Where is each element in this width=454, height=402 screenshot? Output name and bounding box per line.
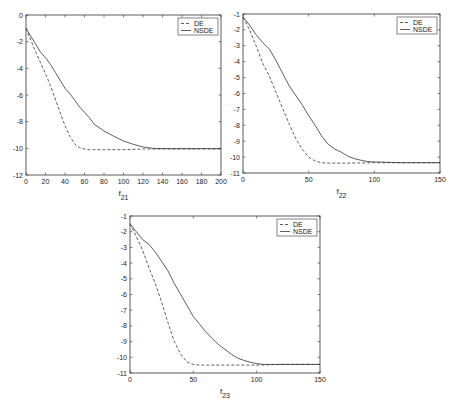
y-tick-label: -7: [121, 307, 127, 314]
y-tick-label: -4: [234, 58, 240, 65]
x-tick-label: 60: [81, 178, 89, 185]
x-tick-label: 0: [128, 376, 132, 383]
x-axis-label: f22: [336, 187, 346, 199]
y-tick-label: -6: [17, 92, 23, 99]
y-tick-label: -3: [234, 42, 240, 49]
legend-label-de: DE: [194, 20, 204, 27]
y-tick-label: 0: [19, 12, 23, 19]
x-tick-label: 100: [118, 178, 130, 185]
y-tick-label: -4: [17, 65, 23, 72]
y-tick-label: -11: [117, 370, 127, 377]
y-tick-label: -3: [121, 244, 127, 251]
legend-label-de: DE: [293, 221, 303, 228]
y-tick-label: -10: [13, 145, 23, 152]
legend: DENSDE: [178, 18, 218, 35]
x-tick-label: 80: [100, 178, 108, 185]
series-de: [243, 17, 440, 163]
y-tick-label: -11: [230, 170, 240, 177]
y-tick-label: -1: [121, 213, 127, 220]
x-axis-label: f23: [220, 387, 230, 399]
chart-f23: 050100150-1-2-3-4-5-6-7-8-9-10-11f23DENS…: [117, 213, 326, 400]
plot-frame: [243, 14, 440, 173]
plot-frame: [26, 15, 221, 175]
y-tick-label: -6: [121, 291, 127, 298]
y-tick-label: -6: [234, 90, 240, 97]
x-tick-label: 140: [157, 178, 169, 185]
y-tick-label: -5: [234, 74, 240, 81]
x-tick-label: 100: [251, 376, 263, 383]
x-tick-label: 0: [241, 176, 245, 183]
x-tick-label: 50: [189, 376, 197, 383]
y-tick-label: -9: [234, 138, 240, 145]
x-tick-label: 180: [196, 178, 208, 185]
legend-label-nsde: NSDE: [413, 26, 433, 33]
legend-label-de: DE: [413, 19, 423, 26]
x-tick-label: 20: [42, 178, 50, 185]
legend: DENSDE: [277, 219, 317, 236]
y-tick-label: -4: [121, 260, 127, 267]
y-tick-label: -8: [121, 322, 127, 329]
x-tick-label: 120: [137, 178, 149, 185]
x-tick-label: 40: [61, 178, 69, 185]
y-tick-label: -12: [13, 172, 23, 179]
figure-canvas: 0204060801001201401601802000-2-4-6-8-10-…: [0, 0, 454, 402]
y-tick-label: -7: [234, 106, 240, 113]
y-tick-label: -2: [17, 38, 23, 45]
x-tick-label: 50: [305, 176, 313, 183]
y-tick-label: -8: [234, 122, 240, 129]
x-tick-label: 160: [176, 178, 188, 185]
y-tick-label: -2: [234, 26, 240, 33]
x-tick-label: 100: [368, 176, 380, 183]
y-tick-label: -10: [117, 354, 127, 361]
x-tick-label: 0: [24, 178, 28, 185]
series-de: [26, 28, 221, 149]
y-tick-label: -1: [234, 11, 240, 18]
y-tick-label: -10: [230, 154, 240, 161]
series-de: [130, 224, 320, 365]
legend: DENSDE: [397, 17, 437, 34]
x-tick-label: 200: [215, 178, 227, 185]
y-tick-label: -2: [121, 228, 127, 235]
y-tick-label: -5: [121, 275, 127, 282]
legend-label-nsde: NSDE: [293, 228, 313, 235]
y-tick-label: -8: [17, 118, 23, 125]
y-tick-label: -9: [121, 338, 127, 345]
legend-label-nsde: NSDE: [194, 27, 214, 34]
series-nsde: [26, 28, 221, 148]
chart-f21: 0204060801001201401601802000-2-4-6-8-10-…: [13, 12, 227, 202]
x-axis-label: f21: [118, 189, 128, 201]
x-tick-label: 150: [434, 176, 446, 183]
x-tick-label: 150: [314, 376, 326, 383]
chart-f22: 050100150-1-2-3-4-5-6-7-8-9-10-11f22DENS…: [230, 11, 446, 200]
series-nsde: [243, 17, 440, 163]
